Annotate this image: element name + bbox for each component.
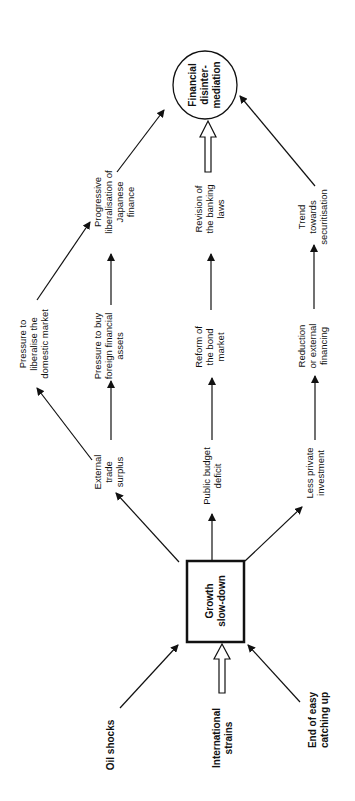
arrow-progressive-to-disintermediation [117, 110, 164, 172]
arrow-oil-to-growth [120, 645, 178, 708]
svg-text:strains: strains [223, 721, 234, 754]
arrow-liberalise-to-progressive [37, 222, 90, 300]
svg-text:External: External [92, 455, 103, 490]
svg-text:foreign financial: foreign financial [103, 313, 114, 380]
svg-text:Oil shocks: Oil shocks [105, 719, 116, 770]
svg-text:Trend: Trend [296, 205, 307, 229]
svg-text:liberalisation of: liberalisation of [103, 170, 114, 234]
svg-text:International: International [211, 708, 222, 768]
svg-text:Revision of: Revision of [193, 185, 204, 232]
reform-of-bond-market: Reform of the bond market [193, 326, 226, 368]
svg-text:towards: towards [307, 200, 318, 234]
effect-external-trade-surplus: External trade surplus [92, 455, 125, 490]
hollow-arrow-intl-to-growth [214, 644, 230, 693]
svg-text:investment: investment [315, 450, 326, 496]
svg-text:End of easy: End of easy [307, 692, 318, 749]
svg-text:market: market [215, 332, 226, 361]
svg-text:Pressure to buy: Pressure to buy [92, 312, 103, 379]
svg-text:Pressure to: Pressure to [17, 320, 28, 369]
financial-disintermediation-label: Financial disinter- mediation [187, 61, 222, 108]
svg-text:assets: assets [114, 332, 125, 360]
svg-text:Less private: Less private [304, 447, 315, 498]
svg-text:Public budget: Public budget [201, 447, 212, 505]
svg-text:slow-down: slow-down [216, 575, 227, 627]
svg-text:Progressive: Progressive [92, 177, 103, 227]
svg-text:mediation: mediation [211, 61, 222, 108]
svg-text:financing: financing [318, 327, 329, 365]
svg-text:laws: laws [215, 199, 226, 218]
svg-text:domestic market: domestic market [39, 309, 50, 379]
svg-text:finance: finance [125, 187, 136, 218]
pressure-to-liberalise-domestic-market: Pressure to liberalise the domestic mark… [17, 309, 50, 379]
svg-text:catching up: catching up [319, 692, 330, 748]
svg-text:the banking: the banking [204, 184, 215, 233]
trend-towards-securitisation: Trend towards securitisation [296, 189, 329, 244]
svg-text:Reduction: Reduction [296, 325, 307, 368]
svg-text:disinter-: disinter- [199, 65, 210, 104]
arrow-securitisation-to-disintermediation [240, 96, 315, 186]
arrow-catchup-to-growth [248, 645, 300, 702]
progressive-liberalisation-japanese-finance: Progressive liberalisation of Japanese f… [92, 170, 136, 234]
svg-text:Growth: Growth [204, 584, 215, 619]
cause-end-of-easy-catching-up: End of easy catching up [307, 692, 330, 749]
reduction-of-external-financing: Reduction or external financing [296, 324, 329, 369]
svg-text:Financial: Financial [187, 63, 198, 107]
cause-international-strains: International strains [211, 708, 234, 768]
svg-text:deficit: deficit [212, 463, 223, 488]
svg-text:liberalise the: liberalise the [28, 317, 39, 370]
effect-less-private-investment: Less private investment [304, 447, 326, 498]
svg-text:surplus: surplus [114, 456, 125, 487]
svg-text:trade: trade [103, 461, 114, 483]
svg-text:Reform of: Reform of [193, 326, 204, 368]
cause-oil-shocks: Oil shocks [105, 719, 116, 770]
arrow-growth-to-trade [116, 493, 179, 562]
svg-text:securitisation: securitisation [318, 189, 329, 244]
effect-public-budget-deficit: Public budget deficit [201, 447, 223, 505]
revision-of-banking-laws: Revision of the banking laws [193, 184, 226, 233]
svg-text:or external: or external [307, 324, 318, 369]
arrow-growth-to-investment [245, 507, 302, 561]
pressure-to-buy-foreign-assets: Pressure to buy foreign financial assets [92, 312, 125, 379]
hollow-arrow-banking-to-disintermediation [200, 121, 216, 172]
svg-text:the bond: the bond [204, 329, 215, 366]
arrow-trade-to-liberalise [37, 388, 92, 460]
diagram-canvas: Growth slow-down Financial disinter- med… [0, 0, 355, 801]
svg-text:Japanese: Japanese [114, 181, 125, 222]
